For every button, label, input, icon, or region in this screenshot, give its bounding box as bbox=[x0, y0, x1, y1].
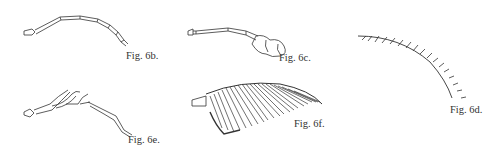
figure-6e-antenna-drawing bbox=[24, 90, 132, 137]
caption-fig-6f: Fig. 6f. bbox=[294, 118, 325, 129]
figure-6d-antenna-drawing bbox=[358, 36, 466, 98]
caption-fig-6e: Fig. 6e. bbox=[128, 134, 160, 145]
caption-fig-6c: Fig. 6c. bbox=[279, 52, 311, 63]
caption-fig-6b: Fig. 6b. bbox=[126, 50, 158, 61]
antenna-figures-drawing bbox=[0, 0, 504, 148]
figure-6b-antenna-drawing bbox=[24, 16, 128, 46]
caption-fig-6d: Fig. 6d. bbox=[450, 104, 482, 115]
figure-6c-antenna-drawing bbox=[188, 28, 285, 57]
